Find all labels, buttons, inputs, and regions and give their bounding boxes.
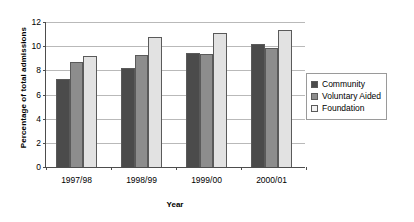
x-axis-tick-mark bbox=[241, 167, 242, 170]
bar bbox=[135, 55, 149, 167]
x-axis-title: Year bbox=[45, 200, 305, 209]
legend-item: Foundation bbox=[311, 103, 381, 114]
bar-chart: Percentage of total admissions 024681012… bbox=[0, 0, 414, 222]
bar-group bbox=[186, 22, 227, 167]
legend-label: Foundation bbox=[322, 103, 365, 114]
bar bbox=[83, 56, 97, 167]
bar bbox=[278, 30, 292, 167]
y-axis-tick-label: 12 bbox=[18, 17, 46, 27]
legend-label: Voluntary Aided bbox=[322, 91, 381, 102]
x-axis-tick-mark bbox=[46, 167, 47, 170]
bar-group bbox=[251, 22, 292, 167]
legend-swatch-icon bbox=[311, 93, 318, 100]
bar bbox=[265, 48, 279, 167]
y-axis-tick-label: 10 bbox=[18, 41, 46, 51]
y-axis-tick-label: 8 bbox=[18, 65, 46, 75]
bar bbox=[121, 68, 135, 167]
bar bbox=[251, 44, 265, 167]
legend: CommunityVoluntary AidedFoundation bbox=[306, 73, 387, 120]
bar-group bbox=[56, 22, 97, 167]
legend-swatch-icon bbox=[311, 81, 318, 88]
y-axis-tick-label: 4 bbox=[18, 114, 46, 124]
x-axis-tick-label: 1998/99 bbox=[126, 175, 157, 185]
bar bbox=[70, 62, 84, 167]
x-axis-tick-label: 2000/01 bbox=[256, 175, 287, 185]
plot-area: 024681012 1997/981998/991999/002000/01 bbox=[45, 22, 305, 168]
bar bbox=[56, 79, 70, 167]
x-axis-tick-label: 1999/00 bbox=[191, 175, 222, 185]
y-axis-tick-label: 6 bbox=[18, 90, 46, 100]
x-axis-tick-mark bbox=[176, 167, 177, 170]
bar bbox=[200, 54, 214, 167]
x-axis-tick-mark bbox=[111, 167, 112, 170]
x-axis-tick-label: 1997/98 bbox=[61, 175, 92, 185]
legend-swatch-icon bbox=[311, 105, 318, 112]
bars-layer: 1997/981998/991999/002000/01 bbox=[46, 22, 305, 167]
bar bbox=[148, 37, 162, 167]
legend-label: Community bbox=[322, 79, 365, 90]
bar-group bbox=[121, 22, 162, 167]
x-axis-tick-mark bbox=[306, 167, 307, 170]
y-axis-tick-label: 2 bbox=[18, 138, 46, 148]
y-axis-tick-label: 0 bbox=[18, 162, 46, 172]
legend-item: Community bbox=[311, 79, 381, 90]
bar bbox=[186, 53, 200, 167]
legend-item: Voluntary Aided bbox=[311, 91, 381, 102]
bar bbox=[213, 33, 227, 167]
